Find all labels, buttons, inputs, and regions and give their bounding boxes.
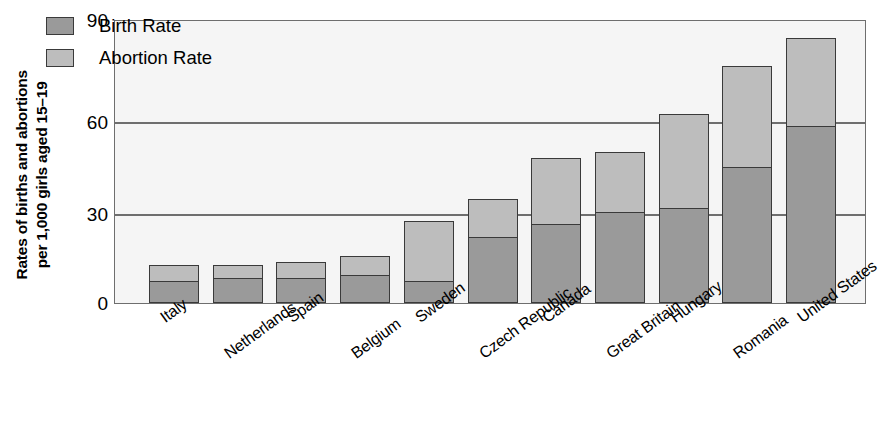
- x-tick-label: Great Britain: [603, 297, 684, 363]
- x-tick-belgium: Belgium: [348, 304, 349, 434]
- bar-segment-birth-rate: [468, 237, 518, 303]
- legend-item-abortion-rate: Abortion Rate: [46, 44, 306, 72]
- bar-segment-birth-rate: [340, 275, 390, 303]
- bar-segment-abortion-rate: [468, 199, 518, 237]
- x-tick-united-states: United States: [794, 304, 795, 434]
- legend-item-birth-rate: Birth Rate: [46, 12, 306, 40]
- bar-segment-abortion-rate: [149, 265, 199, 281]
- bar-hungary: [659, 114, 709, 303]
- x-tick-netherlands: Netherlands: [221, 304, 222, 434]
- x-tick-hungary: Hungary: [667, 304, 668, 434]
- bar-belgium: [340, 256, 390, 303]
- legend-label-abortion-rate: Abortion Rate: [99, 47, 212, 69]
- x-tick-label: Romania: [730, 311, 791, 362]
- y-tick-60: 60: [64, 112, 108, 134]
- bar-great-britain: [595, 152, 645, 303]
- x-tick-italy: Italy: [157, 304, 158, 434]
- bar-segment-abortion-rate: [722, 66, 772, 167]
- bar-segment-birth-rate: [722, 167, 772, 303]
- bar-canada: [531, 158, 581, 303]
- bar-segment-birth-rate: [595, 212, 645, 304]
- y-tick-0: 0: [64, 293, 108, 315]
- bar-czech-republic: [468, 199, 518, 303]
- x-tick-label: Belgium: [348, 315, 404, 363]
- bar-segment-abortion-rate: [404, 221, 454, 281]
- y-tick-30: 30: [64, 204, 108, 226]
- bar-segment-birth-rate: [213, 278, 263, 303]
- bar-segment-abortion-rate: [276, 262, 326, 278]
- x-tick-spain: Spain: [284, 304, 285, 434]
- bar-segment-abortion-rate: [531, 158, 581, 224]
- x-tick-canada: Canada: [539, 304, 540, 434]
- x-tick-sweden: Sweden: [412, 304, 413, 434]
- x-axis-tick-labels: ItalyNetherlandsSpainBelgiumSwedenCzech …: [114, 304, 866, 442]
- legend-swatch-birth-rate-icon: [46, 17, 74, 35]
- bar-segment-abortion-rate: [786, 38, 836, 126]
- bar-segment-abortion-rate: [659, 114, 709, 209]
- bar-netherlands: [213, 265, 263, 303]
- bar-italy: [149, 265, 199, 303]
- chart-legend: Birth Rate Abortion Rate: [46, 12, 306, 76]
- bar-segment-abortion-rate: [595, 152, 645, 212]
- legend-swatch-abortion-rate-icon: [46, 49, 74, 67]
- legend-label-birth-rate: Birth Rate: [99, 15, 181, 37]
- bar-segment-abortion-rate: [340, 256, 390, 275]
- x-tick-czech-republic: Czech Republic: [476, 304, 477, 434]
- bar-united-states: [786, 38, 836, 303]
- bar-segment-abortion-rate: [213, 265, 263, 278]
- bar-segment-birth-rate: [786, 126, 836, 303]
- x-tick-great-britain: Great Britain: [603, 304, 604, 434]
- x-tick-romania: Romania: [730, 304, 731, 434]
- bar-romania: [722, 66, 772, 303]
